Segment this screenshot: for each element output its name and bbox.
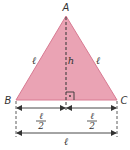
side-label-left: ℓ xyxy=(32,55,36,66)
vertex-label-a: A xyxy=(62,2,70,13)
svg-text:2: 2 xyxy=(37,121,44,131)
svg-text:ℓ: ℓ xyxy=(39,111,43,121)
triangle-diagram: A B C ℓ ℓ h ℓ 2 ℓ 2 ℓ xyxy=(0,0,130,150)
svg-text:2: 2 xyxy=(88,121,95,131)
side-label-right: ℓ xyxy=(96,55,100,66)
fraction-half-left: ℓ 2 xyxy=(36,111,46,131)
vertex-label-b: B xyxy=(5,95,12,106)
fraction-half-right: ℓ 2 xyxy=(87,111,97,131)
svg-text:ℓ: ℓ xyxy=(90,111,94,121)
vertex-label-c: C xyxy=(121,95,128,106)
height-label: h xyxy=(68,55,74,66)
base-label: ℓ xyxy=(64,136,68,147)
